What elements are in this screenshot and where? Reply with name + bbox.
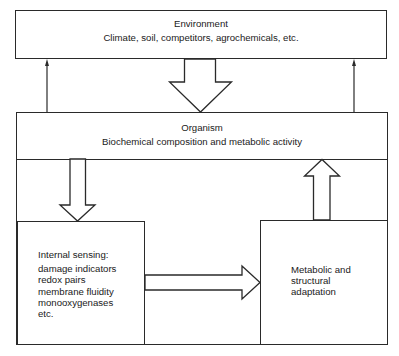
block-down-arrow-sensing-icon: [60, 159, 95, 221]
thin-up-arrow-left-icon: [45, 59, 49, 112]
block-down-arrow-environment-icon: [170, 59, 232, 112]
block-up-arrow-adaptation-icon: [305, 160, 340, 221]
diagram-canvas: Environment Climate, soil, competitors, …: [0, 0, 399, 356]
arrows-layer: [0, 0, 399, 356]
block-right-arrow-icon: [145, 266, 260, 299]
thin-up-arrow-right-icon: [352, 59, 356, 112]
